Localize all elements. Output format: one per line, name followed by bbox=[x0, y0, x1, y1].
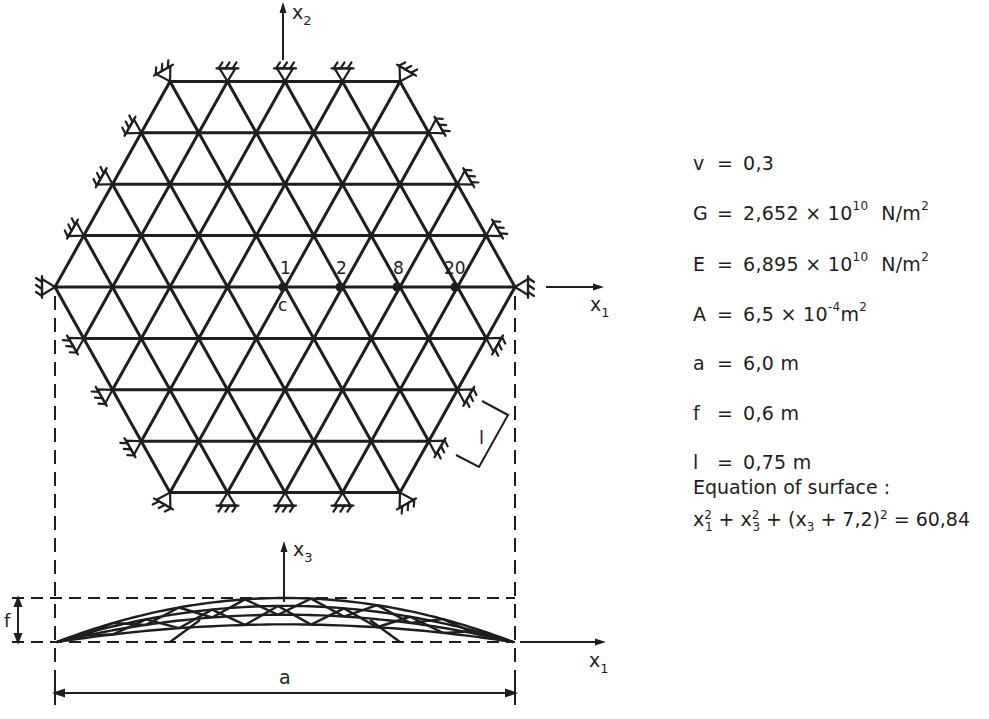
span-label-a: a bbox=[279, 666, 291, 688]
lattice-dome-figure: x2 x1 1 2 8 20 c l x3 x1 bbox=[0, 0, 989, 719]
node-label-20: 20 bbox=[444, 258, 466, 278]
param-span: a=6,0 m bbox=[693, 352, 799, 374]
x1-axis-arrow-elevation bbox=[520, 639, 606, 646]
param-poisson: v=0,3 bbox=[693, 152, 774, 174]
equation-title: Equation of surface : bbox=[693, 476, 890, 498]
member-length-label: l bbox=[479, 427, 484, 448]
x1-axis-label-plan: x1 bbox=[590, 293, 610, 320]
node-label-1: 1 bbox=[280, 258, 291, 278]
x3-axis-label: x3 bbox=[293, 538, 313, 565]
x1-axis-label-elevation: x1 bbox=[589, 649, 609, 676]
x1-axis-arrow-plan bbox=[546, 284, 604, 291]
param-member-length: l=0,75 m bbox=[693, 451, 812, 473]
param-area: A=6,5 × 10-4m2 bbox=[693, 303, 867, 325]
rise-label-f: f bbox=[4, 610, 11, 631]
center-label-c: c bbox=[278, 295, 287, 315]
param-shear-modulus: G=2,652 × 1010 N/m2 bbox=[693, 202, 929, 224]
rise-dimension bbox=[15, 598, 21, 642]
node-label-8: 8 bbox=[393, 258, 404, 278]
surface-equation: x21 + x23 + (x3 + 7,2)2 = 60,84 bbox=[693, 508, 970, 534]
param-rise: f=0,6 m bbox=[693, 402, 799, 424]
x3-axis-arrow bbox=[281, 541, 288, 602]
x2-axis-label: x2 bbox=[292, 1, 312, 28]
x2-axis-arrow bbox=[280, 2, 287, 60]
node-label-2: 2 bbox=[336, 258, 347, 278]
dome-elevation-lattice bbox=[57, 598, 513, 642]
param-youngs-modulus: E=6,895 × 1010 N/m2 bbox=[693, 253, 929, 275]
projection-lines bbox=[55, 296, 515, 680]
